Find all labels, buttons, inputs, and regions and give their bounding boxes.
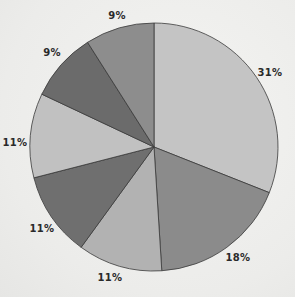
slice-label-6: 9% <box>108 10 126 21</box>
slice-label-0: 31% <box>258 67 283 78</box>
pie-chart: 31%18%11%11%11%9%9% <box>0 0 295 297</box>
pie-slices <box>30 23 278 271</box>
slice-label-3: 11% <box>30 223 55 234</box>
slice-label-1: 18% <box>226 252 251 263</box>
pie-chart-canvas: 31%18%11%11%11%9%9% <box>0 0 295 297</box>
slice-label-5: 9% <box>43 47 61 58</box>
slice-label-2: 11% <box>98 272 123 283</box>
slice-label-4: 11% <box>3 137 28 148</box>
